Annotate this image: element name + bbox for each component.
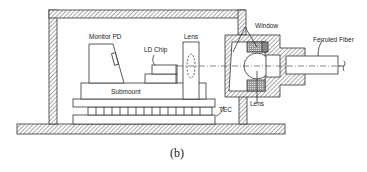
label-ferruled-fiber: Ferruled Fiber bbox=[313, 36, 355, 43]
tec-upper-plate bbox=[73, 99, 215, 107]
monitor-pd bbox=[89, 44, 124, 83]
base-plate bbox=[17, 124, 285, 134]
housing-right-wall-upper bbox=[238, 10, 246, 35]
laser-module-diagram: Monitor PD LD Chip Lens Submount TEC Win… bbox=[0, 0, 367, 172]
label-submount: Submount bbox=[111, 88, 141, 95]
tec-lower-plate bbox=[73, 115, 215, 124]
label-monitor-pd: Monitor PD bbox=[89, 33, 122, 40]
ferruled-fiber bbox=[286, 56, 338, 74]
housing-left-wall bbox=[49, 10, 57, 124]
lens-holder bbox=[183, 42, 199, 99]
figure-caption: (b) bbox=[170, 146, 184, 160]
window-pane bbox=[262, 42, 268, 52]
tec-elements bbox=[88, 107, 212, 115]
ld-chip bbox=[152, 65, 177, 74]
ld-chip-leader bbox=[153, 55, 155, 65]
ld-mount bbox=[145, 74, 177, 83]
label-ld-chip: LD Chip bbox=[144, 46, 168, 54]
window-block-bottom bbox=[247, 80, 265, 91]
label-lens-right: Lens bbox=[250, 100, 265, 107]
label-tec: TEC bbox=[219, 106, 232, 113]
housing-top bbox=[49, 10, 245, 18]
label-lens-left: Lens bbox=[184, 33, 199, 40]
label-window: Window bbox=[255, 22, 278, 29]
